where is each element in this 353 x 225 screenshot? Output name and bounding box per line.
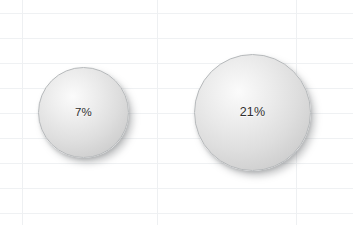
gridline-horizontal <box>0 13 353 14</box>
gridline-horizontal <box>0 188 353 189</box>
gridline-horizontal <box>0 63 353 64</box>
gridline-horizontal <box>0 163 353 164</box>
bubble-value-label: 21% <box>240 106 266 119</box>
gridline-vertical <box>157 0 158 225</box>
gridline-horizontal <box>0 213 353 214</box>
gridline-horizontal <box>0 38 353 39</box>
bubble-marker[interactable]: 7% <box>38 67 129 158</box>
gridline-vertical <box>22 0 23 225</box>
bubble-value-label: 7% <box>75 107 92 119</box>
bubble-marker[interactable]: 21% <box>194 54 311 171</box>
bubble-chart: 7% 21% <box>0 0 353 225</box>
